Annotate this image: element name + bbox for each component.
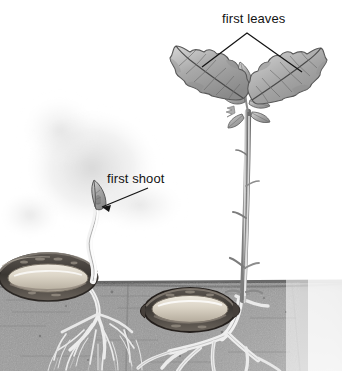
first-leaf-left <box>170 46 249 100</box>
label-first-shoot: first shoot <box>107 172 164 185</box>
illustration-canvas: first leaves first shoot ot <box>0 0 342 371</box>
label-first-leaves: first leaves <box>222 12 285 25</box>
sapling-stem <box>226 112 262 300</box>
seed-left <box>0 253 98 301</box>
germination-illustration <box>0 0 342 371</box>
first-leaf-right <box>248 48 327 104</box>
